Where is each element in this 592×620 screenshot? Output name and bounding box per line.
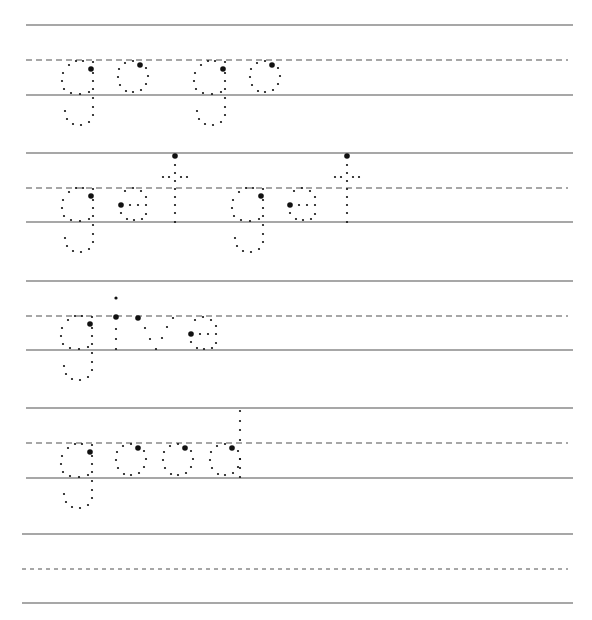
letter-o — [117, 60, 149, 93]
worksheet-canvas — [0, 0, 592, 620]
letter-t — [162, 153, 188, 223]
letter-d — [209, 410, 241, 478]
letter-g — [61, 60, 94, 126]
letter-v — [135, 315, 174, 350]
letter-i — [113, 296, 119, 350]
letter-o — [249, 60, 281, 93]
letter-e — [287, 187, 316, 221]
letter-e — [118, 187, 147, 221]
letter-g — [60, 443, 93, 509]
letter-o — [162, 443, 194, 476]
letter-g — [60, 315, 93, 381]
letter-o — [115, 443, 147, 476]
letter-g — [193, 60, 226, 126]
letter-e — [188, 316, 217, 350]
letter-g — [231, 187, 264, 253]
letter-g — [61, 187, 94, 253]
ruled-lines — [22, 25, 573, 603]
traced-letters — [60, 60, 360, 509]
